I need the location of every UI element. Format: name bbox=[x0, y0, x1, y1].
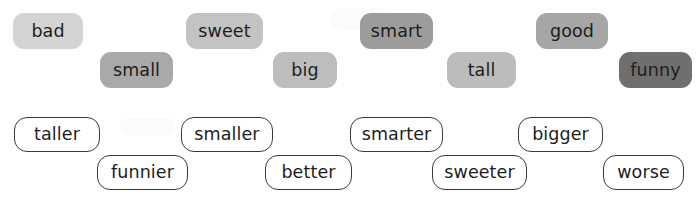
adjective-chip-small[interactable]: small bbox=[100, 52, 173, 88]
adjective-chip-good[interactable]: good bbox=[536, 13, 608, 49]
chip-label: smart bbox=[371, 21, 422, 41]
chip-label: bigger bbox=[532, 124, 589, 144]
adjective-chip-big[interactable]: big bbox=[273, 52, 337, 88]
chip-label: sweeter bbox=[444, 162, 515, 182]
chip-label: better bbox=[281, 162, 335, 182]
chip-label: sweet bbox=[198, 21, 250, 41]
comparative-chip-worse[interactable]: worse bbox=[603, 155, 684, 190]
comparative-chip-funnier[interactable]: funnier bbox=[97, 155, 188, 190]
comparative-chip-smarter[interactable]: smarter bbox=[350, 117, 443, 152]
adjective-chip-funny[interactable]: funny bbox=[619, 52, 692, 88]
adjective-chip-smart[interactable]: smart bbox=[360, 13, 433, 49]
word-matching-exercise: badsmallsweetbigsmarttallgoodfunny talle… bbox=[0, 0, 696, 200]
comparative-chip-taller[interactable]: taller bbox=[14, 117, 100, 152]
background-smudge bbox=[120, 118, 175, 136]
chip-label: smaller bbox=[194, 124, 259, 144]
chip-label: small bbox=[113, 60, 160, 80]
adjective-chip-tall[interactable]: tall bbox=[447, 52, 516, 88]
chip-label: worse bbox=[617, 162, 670, 182]
adjective-chip-bad[interactable]: bad bbox=[13, 13, 83, 49]
chip-label: funnier bbox=[111, 162, 174, 182]
chip-label: big bbox=[291, 60, 318, 80]
chip-label: funny bbox=[630, 60, 680, 80]
chip-label: smarter bbox=[362, 124, 432, 144]
comparative-chip-sweeter[interactable]: sweeter bbox=[432, 155, 527, 190]
comparative-chip-bigger[interactable]: bigger bbox=[518, 117, 603, 152]
adjective-chip-sweet[interactable]: sweet bbox=[186, 13, 263, 49]
chip-label: taller bbox=[34, 124, 80, 144]
chip-label: tall bbox=[468, 60, 496, 80]
chip-label: bad bbox=[31, 21, 64, 41]
comparative-chip-smaller[interactable]: smaller bbox=[181, 117, 273, 152]
comparative-chip-better[interactable]: better bbox=[265, 155, 352, 190]
chip-label: good bbox=[550, 21, 594, 41]
